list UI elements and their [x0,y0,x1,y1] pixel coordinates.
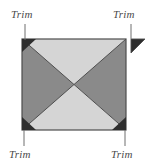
trim-label-bottom-left: Trim [9,148,31,160]
trim-diagram: Trim Trim Trim Trim [0,0,149,165]
trim-label-top-left: Trim [11,8,33,20]
trim-label-bottom-right: Trim [111,148,133,160]
diagram-canvas [0,0,149,165]
trim-label-top-right: Trim [113,8,135,20]
